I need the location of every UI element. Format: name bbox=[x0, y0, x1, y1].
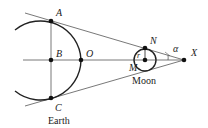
point-x bbox=[182, 58, 187, 63]
label-m: M bbox=[128, 62, 138, 73]
point-b bbox=[49, 58, 54, 63]
upper-tangent-line bbox=[25, 13, 184, 60]
point-m bbox=[143, 58, 148, 63]
caption-moon: Moon bbox=[132, 75, 156, 86]
label-x: X bbox=[190, 47, 198, 58]
label-alpha: α bbox=[173, 43, 179, 54]
label-n: N bbox=[149, 35, 158, 46]
label-c: C bbox=[55, 102, 62, 113]
label-o: O bbox=[86, 48, 93, 59]
eclipse-diagram: A B C O N M X r α Earth Moon bbox=[0, 0, 208, 128]
label-b: B bbox=[56, 48, 62, 59]
point-o bbox=[79, 58, 84, 63]
label-r: r bbox=[137, 51, 141, 60]
earth-arc bbox=[15, 21, 81, 100]
point-n bbox=[143, 46, 148, 51]
point-a bbox=[49, 19, 54, 24]
point-c bbox=[49, 96, 54, 101]
label-a: A bbox=[55, 7, 63, 18]
caption-earth: Earth bbox=[48, 115, 70, 126]
